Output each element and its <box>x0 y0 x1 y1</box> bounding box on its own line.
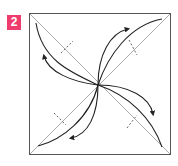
origami-diagram <box>0 0 178 166</box>
